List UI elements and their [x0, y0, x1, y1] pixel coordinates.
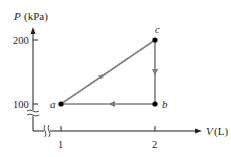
arrow-b-to-a-icon [108, 101, 115, 107]
y-axis-break-icon [27, 110, 39, 112]
y-axis-var: P [13, 10, 21, 22]
path-a-to-c [61, 40, 155, 104]
label-a: a [50, 98, 56, 110]
cycle-path [61, 40, 158, 107]
x-axis-var: V [206, 125, 214, 137]
x-axis-arrow-icon [195, 129, 202, 134]
label-b: b [162, 98, 168, 110]
y-tick-100: 100 [13, 99, 29, 110]
x-tick-2: 2 [152, 139, 157, 150]
point-c [152, 37, 157, 42]
point-a [58, 101, 63, 106]
x-axis-unit: (L) [214, 125, 228, 138]
arrow-c-to-b-icon [152, 69, 158, 76]
point-b [152, 101, 157, 106]
y-axis-unit: (kPa) [24, 10, 48, 23]
y-tick-200: 200 [13, 35, 29, 46]
pv-diagram: 200 100 P (kPa) 1 2 V (L) a b c [0, 0, 231, 157]
label-c: c [155, 24, 160, 35]
y-axis [27, 27, 39, 131]
x-axis-break-icon [44, 125, 46, 137]
x-tick-1: 1 [58, 139, 63, 150]
x-axis [33, 125, 202, 137]
y-axis-arrow-icon [31, 27, 36, 34]
